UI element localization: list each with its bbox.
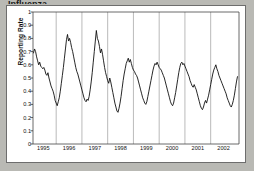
line-chart-svg	[7, 6, 245, 162]
y-axis-ticks: 00.10.20.30.40.50.60.70.80.91	[17, 6, 31, 162]
x-tick-label: 1996	[63, 145, 75, 151]
x-tick-label: 1998	[114, 145, 126, 151]
gridlines	[56, 12, 211, 144]
data-line-reporting-rate	[34, 30, 238, 112]
y-tick-label: 1	[28, 9, 31, 15]
y-tick-label: 0.3	[23, 101, 31, 107]
y-tick-label: 0.1	[23, 128, 31, 134]
x-axis-ticks: 19951996199719981999200020012002	[7, 144, 245, 156]
x-tick-label: 1999	[140, 145, 152, 151]
x-tick-label: 1997	[89, 145, 101, 151]
axis-lines	[33, 12, 239, 144]
x-tick-label: 2002	[217, 145, 229, 151]
x-tick-label: 2001	[192, 145, 204, 151]
x-tick-label: 2000	[166, 145, 178, 151]
x-tick-label: 1995	[37, 145, 49, 151]
y-tick-label: 0.8	[23, 35, 31, 41]
y-tick-label: 0.2	[23, 115, 31, 121]
chart-title: Influenza	[8, 0, 52, 4]
y-tick-label: 0.6	[23, 62, 31, 68]
y-tick-label: 0.4	[23, 88, 31, 94]
figure-frame: Reporting Rate 00.10.20.30.40.50.60.70.8…	[6, 5, 246, 163]
screenshot-root: Influenza Reporting Rate 00.10.20.30.40.…	[0, 0, 254, 171]
y-tick-label: 0.9	[23, 22, 31, 28]
plot-area: Reporting Rate 00.10.20.30.40.50.60.70.8…	[7, 6, 245, 162]
y-tick-label: 0.5	[23, 75, 31, 81]
y-tick-label: 0.7	[23, 49, 31, 55]
